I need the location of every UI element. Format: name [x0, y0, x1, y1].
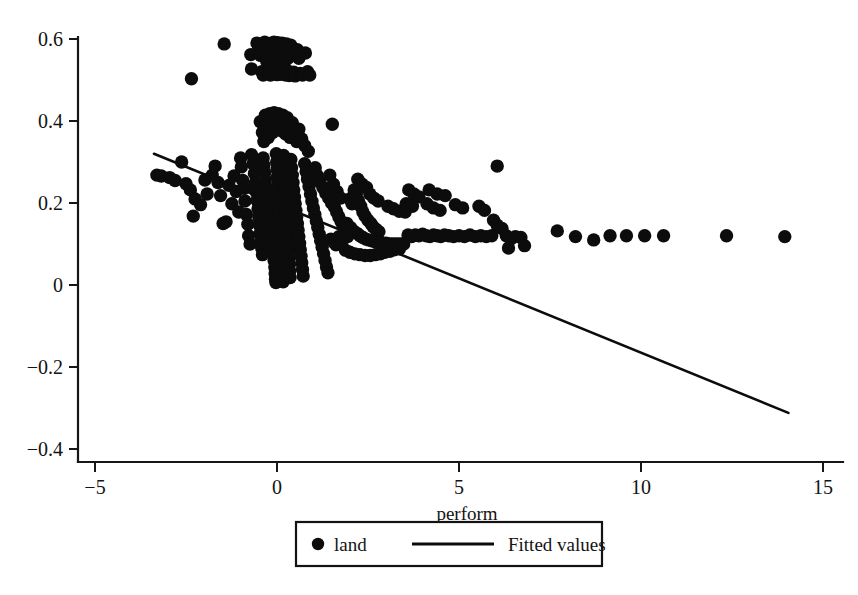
- x-tick-label-1: 0: [272, 476, 282, 498]
- data-point: [456, 201, 469, 214]
- data-point: [283, 271, 296, 284]
- y-tick-label-5: −0.4: [27, 438, 63, 460]
- data-point: [518, 239, 531, 252]
- x-tick-label-4: 15: [813, 476, 833, 498]
- data-point: [235, 160, 248, 173]
- data-point: [778, 230, 791, 243]
- data-point: [433, 204, 446, 217]
- data-point: [720, 229, 733, 242]
- x-tick-label-0: −5: [84, 476, 105, 498]
- data-point: [219, 215, 232, 228]
- legend-marker-land: [312, 538, 324, 550]
- x-tick-label-2: 5: [454, 476, 464, 498]
- data-point: [638, 229, 651, 242]
- data-point: [187, 209, 200, 222]
- data-point: [478, 204, 491, 217]
- data-point: [502, 241, 515, 254]
- data-point: [299, 46, 312, 59]
- data-point: [321, 266, 334, 279]
- x-axis-title: perform: [436, 503, 497, 524]
- chart-legend[interactable]: landFitted values: [296, 522, 606, 566]
- data-point: [551, 224, 564, 237]
- data-point: [208, 159, 221, 172]
- data-point: [326, 118, 339, 131]
- y-tick-label-1: 0.4: [38, 110, 63, 132]
- data-point: [302, 145, 315, 158]
- data-point: [185, 72, 198, 85]
- y-tick-label-4: −0.2: [27, 356, 63, 378]
- scatter-plot-figure: 0.60.40.20−0.2−0.4−5051015perform landFi…: [0, 0, 858, 595]
- data-point: [303, 68, 316, 81]
- y-tick-label-0: 0.6: [38, 28, 63, 50]
- data-point: [569, 230, 582, 243]
- data-point: [200, 187, 213, 200]
- y-tick-label-2: 0.2: [38, 192, 63, 214]
- data-point: [491, 159, 504, 172]
- legend-label-fitted-values: Fitted values: [508, 534, 606, 555]
- x-tick-label-3: 10: [631, 476, 651, 498]
- data-point: [603, 229, 616, 242]
- data-point: [238, 194, 251, 207]
- data-point: [241, 218, 254, 231]
- data-point: [406, 200, 419, 213]
- data-point: [218, 37, 231, 50]
- data-point: [657, 229, 670, 242]
- y-tick-label-3: 0: [53, 274, 63, 296]
- figure-background: [0, 0, 858, 595]
- plot-canvas: 0.60.40.20−0.2−0.4−5051015perform landFi…: [0, 0, 858, 595]
- data-point: [438, 189, 451, 202]
- data-point: [587, 233, 600, 246]
- legend-label-land: land: [334, 534, 367, 555]
- data-point: [620, 229, 633, 242]
- data-point: [297, 269, 310, 282]
